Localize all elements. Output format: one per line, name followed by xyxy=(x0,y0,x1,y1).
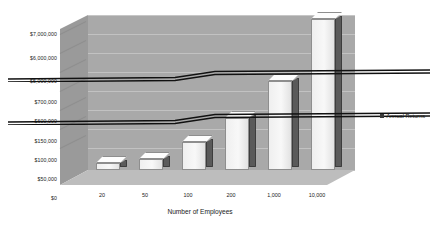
x-tick-label: 200 xyxy=(213,193,249,198)
x-axis-labels: 20 50 100 200 1,000 10,000 xyxy=(60,193,355,203)
x-tick-label: 50 xyxy=(127,193,163,198)
y-tick-label: $0 xyxy=(51,196,57,201)
bar-front-face xyxy=(182,142,206,170)
bar-front-face xyxy=(139,159,163,170)
square-marker-icon xyxy=(380,114,384,118)
bar-side-face xyxy=(292,78,299,167)
bar-column xyxy=(268,81,292,170)
x-tick-label: 10,000 xyxy=(299,193,335,198)
x-tick-label: 1,000 xyxy=(256,193,292,198)
bar-front-face xyxy=(225,118,249,170)
bar-column xyxy=(139,159,163,170)
x-tick-label: 100 xyxy=(170,193,206,198)
bar-side-face xyxy=(249,115,256,167)
bar-column xyxy=(311,19,335,170)
y-tick-label: $100,000 xyxy=(35,158,57,163)
chart-legend: Annual Returns xyxy=(380,113,425,119)
y-tick-label: $5,000,000 xyxy=(30,79,57,84)
floor xyxy=(60,170,355,185)
y-axis-labels: $7,000,000 $6,000,000 $5,000,000 $700,00… xyxy=(0,15,57,185)
y-tick-label: $600,000 xyxy=(35,119,57,124)
y-tick-label: $50,000 xyxy=(38,177,57,182)
bar-side-face xyxy=(335,16,342,167)
legend-entry-label: Annual Returns xyxy=(387,113,426,119)
bar-front-face xyxy=(268,81,292,170)
bar-column xyxy=(96,163,120,170)
y-tick-label: $700,000 xyxy=(35,100,57,105)
y-tick-label: $7,000,000 xyxy=(30,32,57,37)
bar-side-face xyxy=(206,139,213,167)
y-tick-label: $6,000,000 xyxy=(30,56,57,61)
chart-3d-column: $7,000,000 $6,000,000 $5,000,000 $700,00… xyxy=(0,0,444,225)
plot-area xyxy=(60,15,355,185)
y-tick-label: $150,000 xyxy=(35,139,57,144)
bar-front-face xyxy=(311,19,335,170)
x-tick-label: 20 xyxy=(84,193,120,198)
x-axis-title: Number of Employees xyxy=(0,208,400,215)
bar-column xyxy=(182,142,206,170)
bar-front-face xyxy=(96,163,120,170)
bar-column xyxy=(225,118,249,170)
